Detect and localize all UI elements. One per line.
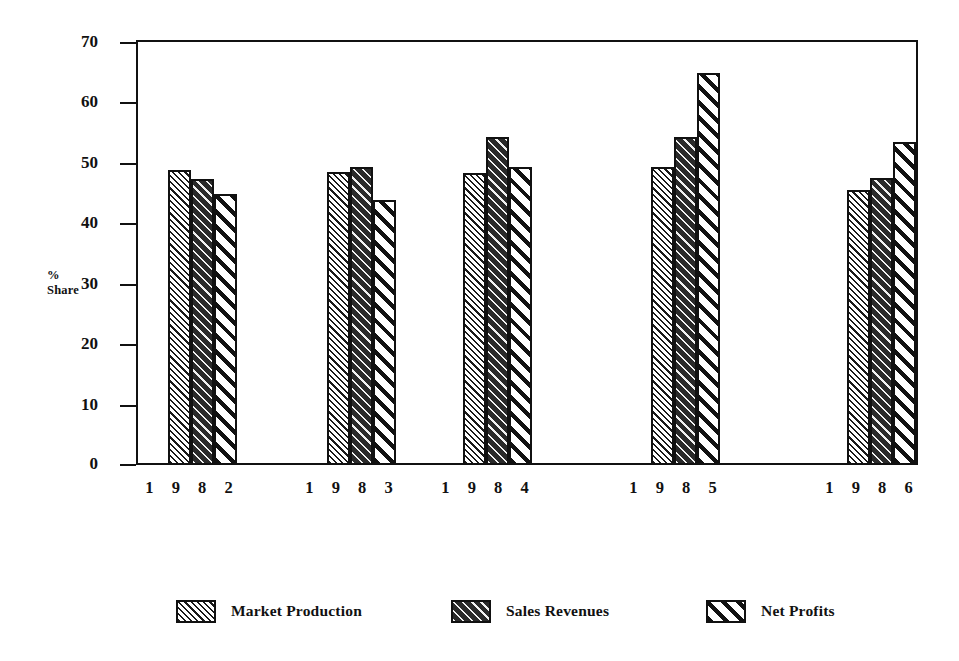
y-tick-label-0: 0 (52, 455, 98, 472)
x-axis-label-1984: 1 9 8 4 (436, 478, 541, 498)
bar-1985-market-production (651, 167, 674, 465)
y-tick-label-30: 30 (52, 275, 98, 292)
legend-swatch-net-profits (706, 600, 746, 623)
legend-label-net-profits: Net Profits (761, 602, 835, 620)
bar-1984-sales-revenues (486, 137, 509, 465)
y-tick-label-60: 60 (52, 93, 98, 110)
legend-label-market-production: Market Production (231, 602, 362, 620)
x-axis-label-1982: 1 9 8 2 (140, 478, 245, 498)
bar-1984-net-profits (509, 167, 532, 465)
legend-label-sales-revenues: Sales Revenues (506, 602, 609, 620)
bar-1982-sales-revenues (191, 179, 214, 465)
y-tick-70 (120, 42, 136, 44)
chart-legend: Market Production Sales Revenues Net Pro… (136, 596, 918, 630)
bar-1985-net-profits (697, 73, 720, 465)
bar-1983-market-production (327, 172, 350, 465)
bar-1986-sales-revenues (870, 178, 893, 465)
bar-chart: % Share 70 60 50 40 30 20 10 0 (0, 0, 959, 661)
legend-item-net-profits: Net Profits (706, 596, 835, 626)
y-tick-label-50: 50 (52, 154, 98, 171)
y-tick-label-10: 10 (52, 396, 98, 413)
bar-1983-sales-revenues (350, 167, 373, 465)
x-axis-label-1985: 1 9 8 5 (624, 478, 729, 498)
bar-1986-market-production (847, 190, 870, 465)
bar-1983-net-profits (373, 200, 396, 465)
legend-item-market-production: Market Production (176, 596, 362, 626)
y-tick-10 (120, 405, 136, 407)
x-axis-label-1983: 1 9 8 3 (300, 478, 405, 498)
bar-1985-sales-revenues (674, 137, 697, 465)
y-tick-label-70: 70 (52, 33, 98, 50)
bar-1986-net-profits (893, 142, 916, 465)
bar-1982-market-production (168, 170, 191, 465)
y-tick-40 (120, 223, 136, 225)
y-tick-30 (120, 284, 136, 286)
legend-swatch-market-production (176, 600, 216, 623)
plot-area (138, 42, 916, 465)
y-tick-20 (120, 344, 136, 346)
bar-1982-net-profits (214, 194, 237, 465)
legend-swatch-sales-revenues (451, 600, 491, 623)
y-tick-label-40: 40 (52, 214, 98, 231)
x-axis-label-1986: 1 9 8 6 (820, 478, 925, 498)
y-tick-60 (120, 102, 136, 104)
y-tick-label-20: 20 (52, 335, 98, 352)
y-tick-50 (120, 163, 136, 165)
y-tick-0 (120, 464, 136, 466)
bar-1984-market-production (463, 173, 486, 465)
legend-item-sales-revenues: Sales Revenues (451, 596, 609, 626)
